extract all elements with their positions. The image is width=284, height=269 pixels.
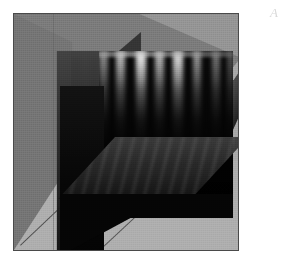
figure-container: A: [0, 0, 284, 269]
panel-label: A: [270, 6, 278, 19]
box-edge-vertical-left: [53, 14, 54, 251]
plot-frame: [13, 13, 239, 251]
slice-right-return-face: [233, 80, 239, 130]
